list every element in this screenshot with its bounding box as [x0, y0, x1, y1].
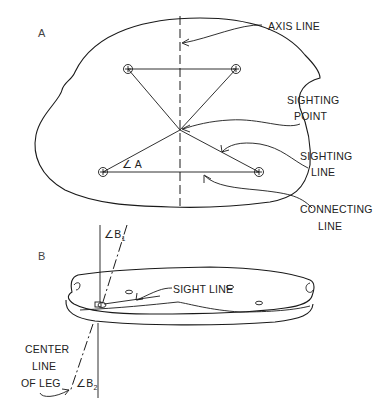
seat-slab-bottom-shadow: [80, 302, 310, 312]
angle-b1-label: ∠B1: [104, 228, 126, 245]
center-line-callout-line2: LINE: [32, 360, 56, 372]
center-line-callout-line1: CENTER: [25, 343, 69, 355]
sighting-line-right-top: [180, 69, 236, 130]
seat-slab-edge: [66, 300, 313, 325]
seat-notch-left: [74, 283, 80, 290]
seat-hole: [126, 290, 133, 294]
angle-b2-label: ∠B2: [76, 377, 98, 394]
sighting-line-leader: [222, 143, 308, 168]
sighting-point-callout-line2: POINT: [294, 110, 327, 122]
sighting-line-right-bottom: [180, 130, 259, 172]
leg-socket: [98, 303, 106, 308]
sighting-point-leader: [183, 120, 300, 129]
seat-notch-right: [306, 283, 313, 292]
seat-outline-top-view: [35, 18, 320, 207]
axis-line-leader: [183, 25, 262, 43]
sight-line: [104, 296, 160, 304]
seat-hole: [256, 301, 263, 305]
connecting-line-callout-line1: CONNECTING: [300, 203, 373, 215]
center-line-callout-line3: OF LEG: [21, 377, 61, 389]
arrowhead: [221, 145, 229, 152]
connecting-line-callout-line2: LINE: [318, 220, 342, 232]
angle-a-label: ∠ A: [122, 158, 142, 170]
sight-line-callout: SIGHT LINE: [173, 283, 233, 295]
sighting-line-left-top: [128, 69, 180, 130]
center-line-leader: [40, 390, 69, 396]
sighting-point-callout-line1: SIGHTING: [287, 94, 339, 106]
sighting-line-callout-line1: SIGHTING: [300, 150, 352, 162]
panel-b-label: B: [38, 250, 46, 262]
sighting-line-callout-line2: LINE: [311, 166, 335, 178]
axis-line-callout: AXIS LINE: [268, 20, 320, 32]
panel-a-label: A: [38, 27, 46, 39]
